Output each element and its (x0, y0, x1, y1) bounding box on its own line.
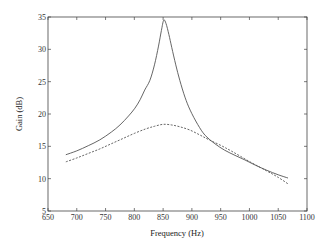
x-axis-label: Frequency (Hz) (150, 228, 204, 238)
frequency-response-chart: 650700750800850900950100010501100 510152… (0, 0, 333, 250)
x-tick-label: 950 (215, 213, 227, 222)
x-tick-label: 700 (71, 213, 83, 222)
x-tick-label: 1050 (270, 213, 286, 222)
y-tick-label: 30 (38, 45, 46, 54)
x-tick-label: 1000 (241, 213, 257, 222)
y-tick-label: 20 (38, 110, 46, 119)
axes-box (48, 17, 307, 211)
y-tick-label: 10 (38, 175, 46, 184)
series-solid-line (66, 20, 288, 178)
series-dashed-line (66, 124, 288, 184)
y-tick-label: 35 (38, 13, 46, 22)
y-tick-label: 15 (38, 142, 46, 151)
x-tick-label: 750 (100, 213, 112, 222)
plot-area (48, 17, 307, 211)
x-tick-label: 1100 (299, 213, 315, 222)
x-axis: 650700750800850900950100010501100 (42, 17, 315, 222)
y-tick-label: 5 (42, 207, 46, 216)
y-axis-label: Gain (dB) (14, 97, 24, 131)
x-tick-label: 900 (186, 213, 198, 222)
x-tick-label: 800 (128, 213, 140, 222)
y-tick-label: 25 (38, 78, 46, 87)
x-tick-label: 850 (157, 213, 169, 222)
y-axis: 5101520253035 (38, 13, 307, 216)
